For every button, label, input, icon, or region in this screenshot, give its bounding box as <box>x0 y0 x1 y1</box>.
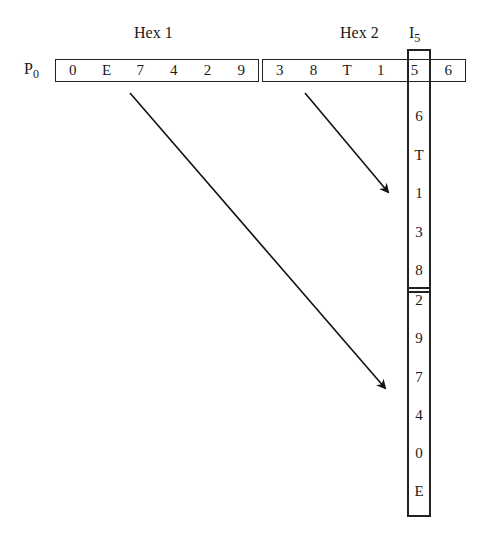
arrows-layer <box>0 0 487 540</box>
arrow-hex1-to-column <box>130 93 385 388</box>
arrow-hex2-to-column <box>305 93 388 192</box>
